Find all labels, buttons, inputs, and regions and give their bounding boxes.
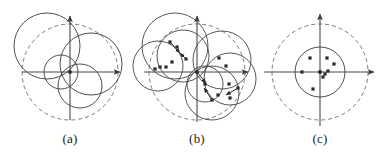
point-marker (184, 57, 187, 60)
panel-c-markers (300, 56, 335, 90)
solid-circle (60, 33, 122, 95)
point-marker (308, 56, 311, 59)
point-marker (158, 65, 161, 68)
solid-circle (142, 13, 208, 79)
point-marker (216, 93, 219, 96)
point-marker (325, 56, 328, 59)
point-marker (300, 70, 303, 73)
vector-arrow (204, 88, 212, 100)
panel-b-solid-circles (133, 13, 256, 120)
point-marker (224, 64, 227, 67)
panel-c-axes (264, 14, 374, 126)
caption-panel-a: (a) (50, 131, 90, 147)
point-marker (203, 82, 206, 85)
caption-panel-c: (c) (300, 131, 340, 147)
point-marker (210, 98, 213, 101)
point-marker (236, 86, 239, 89)
panel-b-axes (144, 16, 248, 122)
point-marker (227, 82, 230, 85)
solid-circle (193, 31, 251, 89)
caption-panel-b: (b) (177, 131, 217, 147)
point-marker (170, 60, 173, 63)
figure-container: (a) (b) (c) (0, 0, 388, 155)
point-marker (168, 40, 171, 43)
point-marker (321, 75, 324, 78)
point-marker (332, 62, 335, 65)
panel-b (133, 13, 256, 122)
vector-arrow (226, 88, 238, 95)
point-marker (323, 72, 326, 75)
solid-circle (58, 64, 102, 108)
panel-a (14, 13, 122, 120)
point-marker (153, 67, 156, 70)
origin-point (68, 70, 72, 74)
origin-point (318, 70, 322, 74)
origin-point (195, 70, 199, 74)
panel-a-solid-circles (14, 13, 122, 108)
point-marker (326, 69, 329, 72)
point-marker (164, 65, 167, 68)
point-marker (175, 45, 178, 48)
solid-circle (185, 66, 239, 120)
point-marker (228, 96, 231, 99)
panel-c (264, 14, 374, 126)
point-marker (217, 56, 220, 59)
point-marker (311, 87, 314, 90)
